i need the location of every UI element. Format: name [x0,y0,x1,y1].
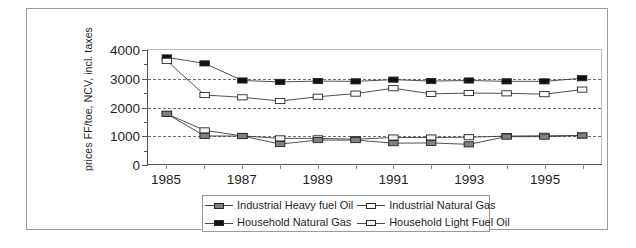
data-point-2-1990 [351,79,360,84]
x-tick-1987 [242,164,243,169]
data-point-3-1992 [426,135,435,140]
y-tick-label-1000: 1000 [96,129,140,144]
legend-marker-household-light-fuel-oil [355,214,387,232]
data-point-2-1988 [275,79,284,84]
data-point-2-1986 [200,61,209,66]
data-point-0-1994 [502,134,511,139]
series-line-2 [167,57,582,82]
data-point-1-1989 [313,94,322,99]
data-point-1-1992 [426,91,435,96]
data-point-2-1991 [389,77,398,82]
data-point-1-1996 [577,87,586,92]
data-point-3-1988 [275,136,284,141]
data-point-1-1994 [502,91,511,96]
data-point-2-1996 [577,76,586,81]
data-point-0-1996 [577,133,586,138]
y-tick-label-0: 0 [96,158,140,173]
legend-label-household-natural-gas: Household Natural Gas [235,214,355,232]
x-tick-label-1993: 1993 [454,172,484,187]
chart-legend: Industrial Heavy fuel Oil Industrial Nat… [202,195,490,232]
x-tick-label-1995: 1995 [530,172,560,187]
data-point-0-1993 [464,142,473,147]
legend-label-industrial-natural-gas: Industrial Natural Gas [387,196,511,214]
data-point-2-1993 [464,78,473,83]
x-tick-1992 [431,164,432,169]
x-tick-1989 [318,164,319,169]
y-tick-label-2000: 2000 [96,100,140,115]
data-point-2-1987 [238,78,247,83]
data-point-0-1992 [426,140,435,145]
x-tick-label-1991: 1991 [378,172,408,187]
x-tick-1996 [583,164,584,169]
x-tick-1985 [166,164,167,169]
data-point-2-1994 [502,79,511,84]
x-axis-line [147,164,602,165]
data-point-0-1986 [200,133,209,138]
x-tick-1993 [469,164,470,169]
series-line-0 [167,114,582,144]
data-point-0-1995 [540,134,549,139]
x-tick-label-1989: 1989 [303,172,333,187]
data-point-0-1985 [162,111,171,116]
data-point-1-1985 [162,58,171,63]
legend-label-household-light-fuel-oil: Household Light Fuel Oil [387,214,511,232]
data-point-0-1988 [275,141,284,146]
data-point-1-1986 [200,92,209,97]
legend-marker-industrial-heavy-fuel-oil [203,196,235,214]
x-tick-1991 [393,164,394,169]
data-point-0-1987 [238,133,247,138]
data-point-2-1995 [540,79,549,84]
series-layer [148,50,601,164]
data-point-1-1993 [464,90,473,95]
data-point-0-1991 [389,141,398,146]
x-tick-1994 [507,164,508,169]
x-tick-1988 [280,164,281,169]
legend-label-industrial-heavy-fuel-oil: Industrial Heavy fuel Oil [235,196,355,214]
chart-frame: prices FF/toe, NCV, incl. taxes 01000200… [26,8,608,230]
data-point-0-1989 [313,137,322,142]
y-tick-label-3000: 3000 [96,71,140,86]
data-point-1-1988 [275,98,284,103]
data-point-0-1990 [351,137,360,142]
data-point-2-1992 [426,78,435,83]
y-axis-title: prices FF/toe, NCV, incl. taxes [79,23,97,175]
legend-marker-industrial-natural-gas [355,196,387,214]
y-axis-title-text: prices FF/toe, NCV, incl. taxes [82,27,94,171]
x-tick-1986 [204,164,205,169]
x-tick-label-1987: 1987 [227,172,257,187]
data-point-2-1989 [313,78,322,83]
data-point-3-1993 [464,135,473,140]
data-point-1-1987 [238,95,247,100]
plot-area: 01000200030004000 [147,49,602,164]
data-point-3-1986 [200,128,209,133]
series-line-3 [167,114,582,139]
data-point-1-1995 [540,92,549,97]
legend-marker-household-natural-gas [203,214,235,232]
x-tick-1995 [545,164,546,169]
x-tick-label-1985: 1985 [151,172,181,187]
data-point-3-1991 [389,135,398,140]
x-tick-1990 [356,164,357,169]
data-point-1-1990 [351,91,360,96]
y-tick-label-4000: 4000 [96,43,140,58]
data-point-1-1991 [389,86,398,91]
